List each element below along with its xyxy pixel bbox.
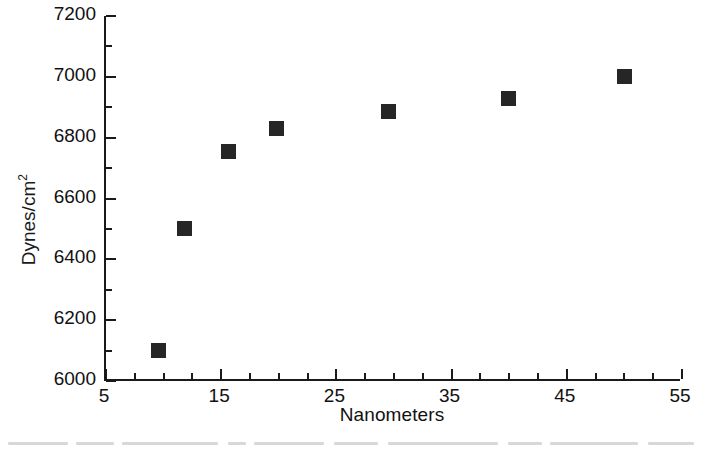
x-tick-minor	[595, 373, 597, 379]
y-tick-major	[106, 137, 116, 139]
data-point-marker	[617, 69, 632, 84]
x-tick-major	[451, 369, 453, 379]
y-tick-minor	[106, 289, 112, 291]
y-tick-minor	[106, 106, 112, 108]
x-tick-minor	[163, 373, 165, 379]
x-tick-label: 35	[420, 385, 480, 407]
y-tick-minor	[106, 228, 112, 230]
x-tick-minor	[307, 373, 309, 379]
x-tick-minor	[278, 373, 280, 379]
caption-text-smudge	[8, 442, 68, 445]
y-tick-major	[106, 380, 116, 382]
x-tick-minor	[537, 373, 539, 379]
x-tick-minor	[652, 373, 654, 379]
caption-text-smudge	[550, 442, 638, 445]
x-tick-label: 45	[535, 385, 595, 407]
data-point-marker	[221, 144, 236, 159]
x-tick-major	[681, 369, 683, 379]
x-tick-major	[335, 369, 337, 379]
x-axis-label: Nanometers	[104, 404, 680, 426]
y-tick-minor	[106, 167, 112, 169]
x-tick-label: 15	[189, 385, 249, 407]
data-point-marker	[151, 343, 166, 358]
y-tick-label: 6600	[34, 186, 96, 208]
x-tick-minor	[422, 373, 424, 379]
x-tick-minor	[364, 373, 366, 379]
caption-text-smudge	[648, 442, 694, 445]
x-tick-minor	[134, 373, 136, 379]
data-point-marker	[381, 104, 396, 119]
x-tick-label: 55	[650, 385, 703, 407]
x-tick-minor	[393, 373, 395, 379]
caption-text-smudge	[76, 442, 114, 445]
x-tick-minor	[508, 373, 510, 379]
y-tick-label: 6200	[34, 307, 96, 329]
y-tick-label: 7000	[34, 64, 96, 86]
y-axis-label-container: Dynes/cm2	[10, 120, 40, 320]
y-tick-minor	[106, 350, 112, 352]
y-tick-major	[106, 15, 116, 17]
y-tick-label: 6800	[34, 125, 96, 147]
x-tick-label: 25	[304, 385, 364, 407]
scatter-chart-figure: Dynes/cm2 Nanometers 6000620064006600680…	[0, 0, 703, 460]
caption-text-smudge	[228, 442, 246, 445]
caption-text-smudge	[122, 442, 218, 445]
x-tick-minor	[623, 373, 625, 379]
x-tick-minor	[249, 373, 251, 379]
plot-area	[104, 16, 680, 381]
data-point-marker	[501, 91, 516, 106]
y-tick-label: 7200	[34, 3, 96, 25]
x-tick-major	[105, 369, 107, 379]
page-caption-fragment	[0, 436, 703, 460]
y-tick-minor	[106, 45, 112, 47]
y-axis-label-exponent: 2	[16, 174, 30, 181]
data-point-marker	[177, 221, 192, 236]
caption-text-smudge	[254, 442, 324, 445]
caption-text-smudge	[508, 442, 542, 445]
y-tick-label: 6400	[34, 246, 96, 268]
x-tick-major	[220, 369, 222, 379]
x-tick-major	[566, 369, 568, 379]
y-tick-major	[106, 258, 116, 260]
y-tick-major	[106, 76, 116, 78]
data-point-marker	[269, 121, 284, 136]
y-tick-major	[106, 319, 116, 321]
x-tick-minor	[479, 373, 481, 379]
y-axis-label: Dynes/cm2	[16, 130, 39, 310]
y-tick-major	[106, 198, 116, 200]
x-tick-label: 5	[74, 385, 134, 407]
caption-text-smudge	[334, 442, 378, 445]
caption-text-smudge	[388, 442, 498, 445]
x-tick-minor	[191, 373, 193, 379]
